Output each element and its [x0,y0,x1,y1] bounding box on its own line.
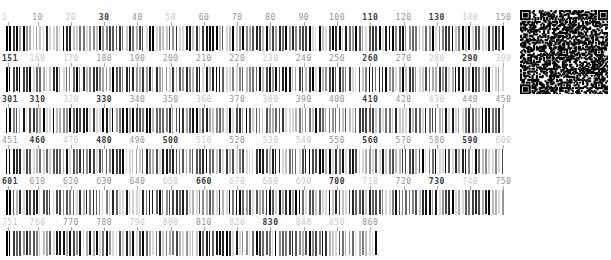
ruler-label: 830 [263,218,279,227]
ruler-label: 400 [329,95,345,104]
ruler-label: 680 [263,177,279,186]
barcode-strip [6,108,507,133]
ruler-label: 770 [63,218,79,227]
ruler-label: 100 [329,13,345,22]
ruler-label: 590 [462,136,478,145]
ruler-label: 160 [30,54,46,63]
ruler-label: 270 [396,54,412,63]
barcode-row: 6016106206306406506606706806907007107207… [0,177,611,217]
ruler-label: 540 [296,136,312,145]
ruler-label: 600 [495,136,511,145]
ruler-label: 700 [329,177,345,186]
ruler-label: 151 [2,54,18,63]
ruler-label: 610 [30,177,46,186]
ruler-label: 750 [495,177,511,186]
ruler-label: 120 [396,13,412,22]
ruler-label: 800 [163,218,179,227]
ruler-label: 860 [362,218,378,227]
ruler-label: 350 [163,95,179,104]
ruler-label: 630 [96,177,112,186]
ruler-label: 220 [229,54,245,63]
ruler-label: 660 [196,177,212,186]
ruler-label: 670 [229,177,245,186]
ruler-label: 180 [96,54,112,63]
ruler-label: 710 [362,177,378,186]
ruler-label: 300 [495,54,511,63]
ruler-label: 620 [63,177,79,186]
ruler-label: 170 [63,54,79,63]
ruler-label: 480 [96,136,112,145]
barcode-row: 751760770780790800810820830840850860 [0,218,611,258]
ruler-label: 301 [2,95,18,104]
barcode-strip [6,67,507,92]
ruler-label: 570 [396,136,412,145]
ruler-label: 1 [2,13,7,22]
ruler-label: 40 [132,13,143,22]
ruler-label: 530 [263,136,279,145]
barcode-row: 4514604704804905005105205305405505605705… [0,136,611,176]
ruler-label: 110 [362,13,378,22]
ruler-label: 730 [429,177,445,186]
ruler-label: 450 [495,95,511,104]
ruler-label: 50 [165,13,176,22]
ruler-label: 780 [96,218,112,227]
ruler-label: 490 [129,136,145,145]
ruler-label: 130 [429,13,445,22]
ruler-label: 390 [296,95,312,104]
ruler-label: 820 [229,218,245,227]
ruler-label: 280 [429,54,445,63]
ruler-label: 500 [163,136,179,145]
ruler-label: 640 [129,177,145,186]
ruler-label: 330 [96,95,112,104]
ruler-label: 380 [263,95,279,104]
ruler-label: 760 [30,218,46,227]
ruler-label: 690 [296,177,312,186]
ruler-label: 560 [362,136,378,145]
barcode-strip [6,231,380,256]
ruler-label: 10 [32,13,43,22]
ruler-label: 840 [296,218,312,227]
barcode-strip [6,26,507,51]
ruler-label: 790 [129,218,145,227]
ruler-label: 580 [429,136,445,145]
ruler-label: 650 [163,177,179,186]
ruler-label: 190 [129,54,145,63]
ruler-label: 60 [199,13,210,22]
ruler-label: 20 [66,13,77,22]
ruler-label: 230 [263,54,279,63]
ruler-label: 30 [99,13,110,22]
ruler-label: 340 [129,95,145,104]
ruler-label: 850 [329,218,345,227]
ruler-label: 310 [30,95,46,104]
ruler-label: 150 [495,13,511,22]
ruler-label: 420 [396,95,412,104]
ruler-label: 520 [229,136,245,145]
ruler-label: 80 [265,13,276,22]
ruler-label: 250 [329,54,345,63]
ruler-label: 810 [196,218,212,227]
ruler-label: 240 [296,54,312,63]
ruler-label: 70 [232,13,243,22]
ruler-label: 360 [196,95,212,104]
ruler-label: 440 [462,95,478,104]
ruler-label: 260 [362,54,378,63]
barcode-strip [6,149,507,174]
ruler-label: 601 [2,177,18,186]
ruler-label: 430 [429,95,445,104]
ruler-label: 510 [196,136,212,145]
ruler-label: 370 [229,95,245,104]
ruler-label: 720 [396,177,412,186]
ruler-label: 140 [462,13,478,22]
ruler-label: 751 [2,218,18,227]
ruler-label: 90 [298,13,309,22]
ruler-label: 200 [163,54,179,63]
ruler-label: 451 [2,136,18,145]
ruler-label: 460 [30,136,46,145]
ruler-label: 740 [462,177,478,186]
ruler-label: 470 [63,136,79,145]
barcode-row: 3013103203303403503603703803904004104204… [0,95,611,135]
ruler-label: 320 [63,95,79,104]
ruler-label: 410 [362,95,378,104]
ruler-label: 210 [196,54,212,63]
barcode-sheet: 1102030405060708090100110120130140150151… [0,0,611,260]
